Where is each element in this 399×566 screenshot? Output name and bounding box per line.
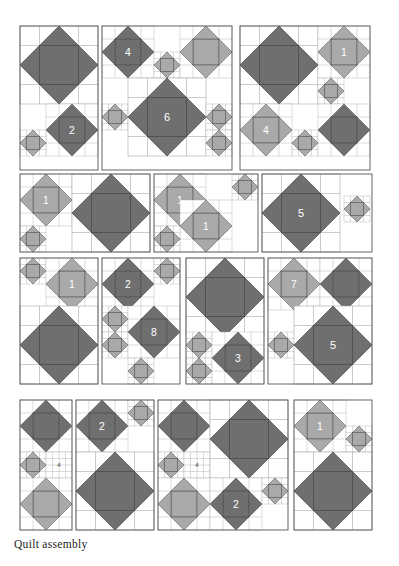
block-r2-c3[interactable]: 5 (262, 174, 372, 252)
star-large-dark (240, 26, 318, 104)
star-medium-dark-label: 2 (99, 421, 105, 432)
star-large-dark (20, 26, 98, 104)
star-large-dark (72, 174, 150, 252)
star-large-dark (294, 452, 372, 530)
star-small-light-a-center (193, 339, 206, 352)
star-medium-light-lower (158, 478, 210, 530)
star-small-light-center (161, 59, 174, 72)
star-medium-light-lower-label: 1 (203, 221, 209, 232)
star-small-light-b (186, 358, 212, 384)
star-large-dark-right-center (230, 420, 269, 459)
star-large-dark-label: 5 (330, 339, 336, 351)
star-small-light (20, 452, 46, 478)
star-medium-light-lower-label: 4 (263, 125, 269, 136)
star-medium-dark-top-center (333, 271, 359, 297)
block-r4-c1[interactable]: 4 (20, 400, 72, 530)
star-small-light-bottom-center (135, 365, 148, 378)
star-medium-light (180, 26, 232, 78)
star-small-light (344, 196, 370, 222)
block-r1-c3[interactable]: 14 (240, 26, 370, 170)
star-medium-dark-label: 2 (69, 125, 75, 136)
star-small-light-left (268, 332, 294, 358)
star-medium-dark-top (320, 258, 372, 310)
star-small-light (346, 426, 372, 452)
quilt-assembly-diagram: 24614111512837542421 Quilt assembly (0, 0, 399, 566)
star-small-light-bottom (128, 358, 154, 384)
star-small-light-center (351, 203, 364, 216)
star-large-dark-label: 6 (164, 111, 170, 123)
star-small-light (20, 226, 46, 252)
block-r3-c3[interactable]: 3 (186, 258, 264, 384)
block-r4-c3[interactable]: 42 (158, 400, 288, 530)
star-medium-light-label: 1 (341, 47, 347, 58)
star-small-light-bottom-right-center (269, 485, 282, 498)
star-medium-light-lower-center (171, 491, 197, 517)
star-medium-light-label: 1 (43, 195, 49, 206)
star-large-dark-center (40, 326, 79, 365)
quilt-svg: 24614111512837542421 (0, 0, 399, 566)
star-small-light-left-center (275, 339, 288, 352)
star-large-dark-lower (76, 452, 154, 530)
star-large-dark-lower-center (96, 472, 135, 511)
star-medium-light-center (193, 39, 219, 65)
star-small-light-mid-b (102, 332, 128, 358)
star-small-light-right-top (206, 104, 232, 130)
star-medium-light-label: 1 (317, 421, 323, 432)
block-r4-c4[interactable]: 1 (294, 400, 372, 530)
star-medium-light-lower-center (33, 491, 59, 517)
row-3: 128375 (20, 258, 372, 384)
star-small-light-b-center (193, 365, 206, 378)
star-medium-dark-top-center (171, 413, 197, 439)
star-small-light-center (353, 433, 366, 446)
star-large-dark (20, 306, 98, 384)
star-small-light (128, 400, 154, 426)
star-small-light-center (325, 85, 338, 98)
star-medium-light-label: 1 (69, 279, 75, 290)
star-small-light-left (158, 452, 184, 478)
star-medium-dark-lower-label: 3 (235, 353, 241, 364)
star-small-light-center (27, 265, 40, 278)
block-r3-c2[interactable]: 28 (102, 258, 180, 384)
block-r3-c4[interactable]: 75 (268, 258, 372, 384)
star-small-light-bottom-right (262, 478, 288, 504)
block-r1-c2[interactable]: 46 (102, 26, 232, 170)
star-small-light (154, 52, 180, 78)
star-medium-dark-top (158, 400, 210, 452)
star-small-light-a (186, 332, 212, 358)
star-small-light-bottom (154, 226, 180, 252)
star-large-dark-label: 5 (298, 207, 304, 219)
star-medium-dark (20, 400, 72, 452)
block-r3-c1[interactable]: 1 (20, 258, 98, 384)
star-large-dark-center (314, 472, 353, 511)
star-small-light-center (27, 137, 40, 150)
star-small-light-center (27, 233, 40, 246)
star-small-light-left-center (165, 459, 178, 472)
block-r1-c1[interactable]: 2 (20, 26, 98, 170)
star-medium-dark-lower-center (331, 117, 357, 143)
star-small-light-top-right-center (161, 265, 174, 278)
block-r4-c2[interactable]: 2 (76, 400, 154, 530)
star-small-light (20, 258, 46, 284)
star-medium-dark-label: 2 (125, 279, 131, 290)
star-small-light-lower-center (299, 137, 312, 150)
block-r2-c2[interactable]: 11 (154, 174, 258, 252)
star-small-light (20, 130, 46, 156)
star-medium-dark-lower-label: 2 (233, 499, 239, 510)
figure-caption: Quilt assembly (14, 538, 88, 550)
star-small-light-mid-b-center (109, 339, 122, 352)
star-small-light-mid-a (102, 306, 128, 332)
star-small-light-right-top-center (213, 111, 226, 124)
star-small-light-top (232, 174, 258, 200)
star-small-light-mid-a-center (109, 313, 122, 326)
star-medium-dark-center (33, 413, 59, 439)
star-small-light-top-right (154, 258, 180, 284)
star-small-light-center (27, 459, 40, 472)
block-r2-c1[interactable]: 1 (20, 174, 150, 252)
star-small-light (318, 78, 344, 104)
star-large-dark (186, 258, 264, 336)
star-small-light-right-bottom-center (213, 137, 226, 150)
star-small-light-right-bottom (206, 130, 232, 156)
row-1: 24614 (20, 26, 370, 170)
star-large-dark-center (40, 46, 79, 85)
star-large-dark-center (260, 46, 299, 85)
